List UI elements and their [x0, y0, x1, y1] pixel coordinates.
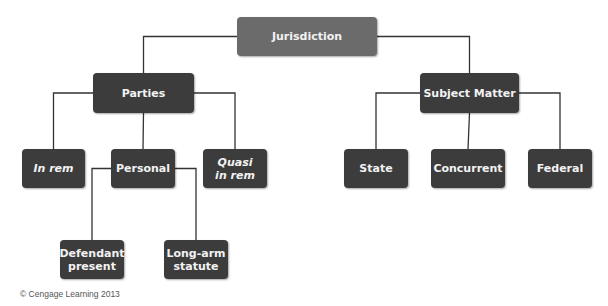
node-federal: Federal [528, 149, 592, 188]
node-label: Federal [537, 162, 583, 175]
node-subject-matter: Subject Matter [420, 73, 519, 113]
connector-jurisdiction-to-subject_matter [377, 37, 470, 74]
connector-subject_matter-to-concurrent [468, 113, 470, 149]
node-label: State [359, 162, 392, 175]
connector-subject_matter-to-state [376, 93, 420, 149]
node-label: Subject Matter [423, 87, 515, 100]
node-defendant-present: Defendant present [60, 240, 124, 279]
node-quasi-in-rem: Quasi in rem [203, 149, 267, 188]
node-parties: Parties [93, 73, 194, 113]
connector-parties-to-personal [143, 113, 144, 149]
node-state: State [344, 149, 408, 188]
connector-subject_matter-to-federal [519, 93, 560, 149]
connector-jurisdiction-to-parties [144, 37, 238, 74]
jurisdiction-diagram: Jurisdiction Parties Subject Matter In r… [0, 0, 608, 306]
node-label: In rem [33, 162, 73, 175]
node-personal: Personal [111, 149, 175, 188]
node-jurisdiction: Jurisdiction [237, 17, 377, 56]
connector-parties-to-in_rem [54, 93, 94, 149]
node-label: Parties [122, 87, 166, 100]
node-label: Quasi in rem [215, 156, 255, 182]
node-in-rem: In rem [22, 149, 85, 188]
connector-personal-to-long_arm_statute [175, 169, 196, 241]
node-long-arm-statute: Long-arm statute [164, 240, 228, 279]
node-label: Long-arm statute [166, 247, 225, 273]
node-concurrent: Concurrent [431, 149, 505, 188]
connector-personal-to-defendant_present [92, 169, 111, 241]
node-label: Concurrent [433, 162, 502, 175]
node-label: Defendant present [59, 247, 124, 273]
copyright-credit: © Cengage Learning 2013 [20, 289, 120, 299]
connector-parties-to-quasi_in_rem [194, 93, 235, 149]
node-label: Jurisdiction [272, 30, 342, 43]
node-label: Personal [116, 162, 170, 175]
